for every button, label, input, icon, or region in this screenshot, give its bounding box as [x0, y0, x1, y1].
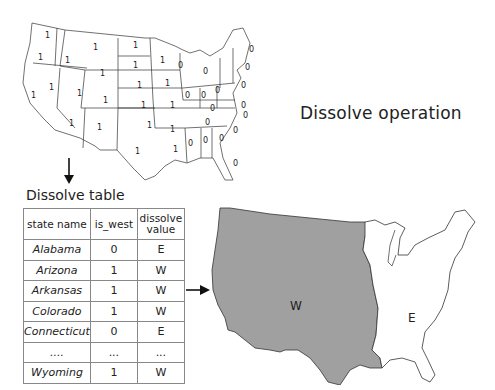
table-row: Connecticut0E: [24, 322, 185, 343]
value-ut: 1: [77, 89, 82, 98]
value-ms: 0: [188, 139, 193, 148]
value-fl: 0: [233, 159, 238, 168]
states-map: 1 1 1 1 1 1 1 1 1 1 1 1 1 1 1 1 1 1 1 1 …: [5, 8, 255, 183]
header-is-west: is_west: [90, 209, 137, 240]
value-ia: 1: [165, 79, 170, 88]
value-nv: 1: [49, 83, 54, 92]
value-ne: 1: [137, 81, 142, 90]
value-ca: 1: [31, 91, 36, 100]
value-mt: 1: [93, 43, 98, 52]
value-tn: 0: [205, 118, 210, 127]
value-nm: 1: [97, 123, 102, 132]
value-wi: 0: [178, 61, 183, 70]
value-in: 0: [201, 91, 206, 100]
value-oh: 0: [215, 86, 220, 95]
diagram-title: Dissolve operation: [300, 103, 462, 123]
region-west: [212, 208, 382, 385]
table-row: Alabama0E: [24, 240, 185, 261]
value-ok: 1: [147, 121, 152, 130]
header-dissolve-value: dissolvevalue: [137, 209, 184, 240]
value-ks: 1: [141, 101, 146, 110]
value-tx: 1: [135, 147, 140, 156]
value-al: 0: [203, 136, 208, 145]
table-row: Colorado1W: [24, 301, 185, 322]
value-pa: 0: [241, 81, 246, 90]
value-ny: 0: [245, 63, 250, 72]
value-co: 1: [103, 96, 108, 105]
value-ar: 1: [170, 125, 175, 134]
value-sd: 1: [133, 61, 138, 70]
value-az: 1: [69, 119, 74, 128]
dissolve-table: state name is_west dissolvevalue Alabama…: [23, 208, 185, 384]
value-mi: 0: [203, 67, 208, 76]
table-row: Wyoming1W: [24, 363, 185, 384]
region-west-label: W: [290, 299, 302, 313]
region-east: [363, 210, 475, 382]
table-row: ..........: [24, 342, 185, 363]
header-state-name: state name: [24, 209, 91, 240]
value-nc: 0: [243, 111, 248, 120]
value-wa: 1: [45, 31, 50, 40]
value-va: 0: [241, 101, 246, 110]
region-east-label: E: [408, 311, 416, 325]
right-arrow-icon: [186, 284, 210, 296]
value-wy: 1: [100, 69, 105, 78]
value-il: 0: [185, 91, 190, 100]
value-ky: 0: [210, 104, 215, 113]
table-row: Arkansas1W: [24, 281, 185, 302]
table-row: Arizona1W: [24, 260, 185, 281]
value-id: 1: [65, 56, 70, 65]
value-ga: 0: [219, 134, 224, 143]
value-mo: 1: [170, 101, 175, 110]
value-vt: 0: [249, 45, 254, 54]
value-la: 1: [173, 145, 178, 154]
down-arrow-icon: [62, 158, 76, 184]
value-mn: 1: [160, 56, 165, 65]
table-title: Dissolve table: [26, 187, 125, 203]
value-sc: 0: [233, 126, 238, 135]
table-header-row: state name is_west dissolvevalue: [24, 209, 185, 240]
value-or: 1: [38, 53, 43, 62]
value-nd: 1: [133, 41, 138, 50]
dissolved-map: W E: [210, 200, 495, 385]
